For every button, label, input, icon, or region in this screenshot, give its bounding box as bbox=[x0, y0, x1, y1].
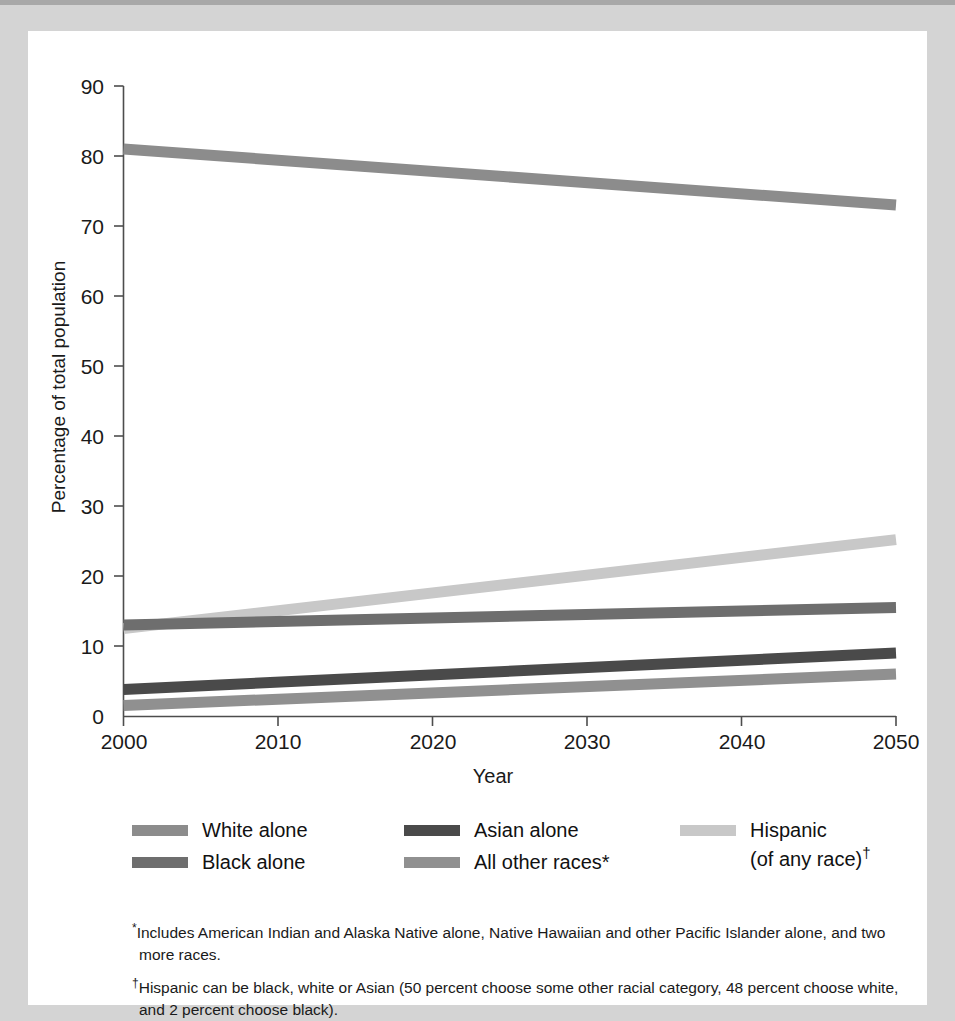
x-tick-label-2050: 2050 bbox=[851, 731, 941, 752]
x-tick-label-2040: 2040 bbox=[697, 731, 787, 752]
y-tick-label-0: 0 bbox=[58, 706, 104, 727]
legend-swatch-all-other-races bbox=[404, 857, 460, 868]
x-tick-label-2010: 2010 bbox=[233, 731, 323, 752]
dagger-marker: † bbox=[862, 844, 870, 861]
legend-label-white-alone: White alone bbox=[202, 817, 308, 843]
legend-swatch-hispanic bbox=[680, 825, 736, 836]
legend-entry-white-alone[interactable]: White alone bbox=[132, 817, 308, 843]
legend-swatch-black-alone bbox=[132, 857, 188, 868]
legend-swatch-asian-alone bbox=[404, 825, 460, 836]
chart-plot-area bbox=[28, 31, 927, 771]
x-tick-marks bbox=[124, 716, 897, 726]
legend-label-hispanic: Hispanic (of any race)† bbox=[750, 817, 871, 872]
y-tick-label-90: 90 bbox=[58, 76, 104, 97]
legend-swatch-white-alone bbox=[132, 825, 188, 836]
footnote-text-asterisk: Includes American Indian and Alaska Nati… bbox=[137, 924, 886, 963]
legend-label-asian-alone: Asian alone bbox=[474, 817, 579, 843]
y-tick-marks bbox=[114, 86, 124, 646]
legend-label-all-other-races: All other races* bbox=[474, 849, 610, 875]
footnote-marker-dagger: † bbox=[132, 976, 139, 990]
series-line-white-alone bbox=[124, 149, 897, 205]
legend-entry-asian-alone[interactable]: Asian alone bbox=[404, 817, 579, 843]
footnotes-block: *Includes American Indian and Alaska Nat… bbox=[132, 920, 922, 1021]
legend-entry-black-alone[interactable]: Black alone bbox=[132, 849, 305, 875]
y-axis-title: Percentage of total population bbox=[48, 257, 70, 517]
x-tick-label-2000: 2000 bbox=[79, 731, 169, 752]
x-tick-label-2020: 2020 bbox=[388, 731, 478, 752]
legend-entry-all-other-races[interactable]: All other races* bbox=[404, 849, 610, 875]
y-tick-label-20: 20 bbox=[58, 566, 104, 587]
y-tick-label-10: 10 bbox=[58, 636, 104, 657]
chart-figure: 90 80 70 60 50 40 30 20 10 0 2000 2010 2… bbox=[28, 31, 927, 1005]
chart-series-group bbox=[124, 149, 897, 706]
y-tick-label-70: 70 bbox=[58, 216, 104, 237]
page-background: 90 80 70 60 50 40 30 20 10 0 2000 2010 2… bbox=[0, 0, 955, 1021]
figure-card: 90 80 70 60 50 40 30 20 10 0 2000 2010 2… bbox=[28, 31, 927, 1005]
footnote-asterisk: *Includes American Indian and Alaska Nat… bbox=[132, 920, 922, 966]
legend-label-black-alone: Black alone bbox=[202, 849, 305, 875]
y-tick-label-80: 80 bbox=[58, 146, 104, 167]
footnote-dagger: †Hispanic can be black, white or Asian (… bbox=[132, 975, 922, 1021]
footnote-text-dagger: Hispanic can be black, white or Asian (5… bbox=[139, 979, 899, 1018]
top-edge-strip bbox=[0, 0, 955, 5]
legend-entry-hispanic[interactable]: Hispanic (of any race)† bbox=[680, 817, 871, 872]
x-axis-title: Year bbox=[433, 765, 553, 788]
legend-label-hispanic-text: Hispanic (of any race) bbox=[750, 819, 862, 870]
x-tick-label-2030: 2030 bbox=[542, 731, 632, 752]
